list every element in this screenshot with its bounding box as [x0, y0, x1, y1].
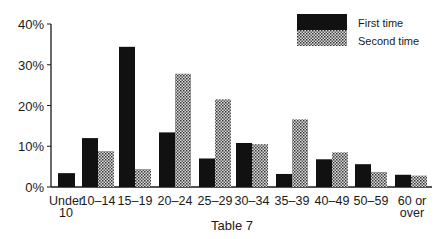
- bar-second-time: [332, 152, 348, 187]
- bar-second-time: [135, 169, 151, 187]
- bar-first-time: [395, 175, 411, 187]
- legend-swatch-second-time: [297, 30, 347, 46]
- x-category-label: 30–34: [235, 194, 270, 208]
- y-tick-label: 40%: [18, 17, 44, 32]
- x-category-label: 10–14: [81, 194, 116, 208]
- x-category-label: 25–29: [198, 194, 233, 208]
- x-category-label: 10: [59, 206, 73, 220]
- bar-first-time: [82, 138, 98, 187]
- bar-second-time: [98, 151, 114, 187]
- legend: First timeSecond time: [297, 14, 419, 47]
- x-category-label: over: [400, 206, 424, 220]
- bar-first-time: [159, 132, 175, 187]
- y-tick-label: 10%: [18, 139, 44, 154]
- x-category-label: 35–39: [275, 194, 310, 208]
- bar-first-time: [316, 159, 332, 187]
- bar-first-time: [58, 173, 75, 187]
- legend-label-first-time: First time: [358, 17, 403, 29]
- bar-second-time: [175, 74, 191, 187]
- chart-caption: Table 7: [211, 218, 253, 233]
- bar-first-time: [276, 174, 292, 187]
- bar-second-time: [252, 144, 268, 187]
- y-tick-label: 20%: [18, 99, 44, 114]
- bar-first-time: [199, 158, 215, 187]
- bar-second-time: [411, 176, 427, 187]
- x-category-label: 50–59: [354, 194, 389, 208]
- bar-first-time: [236, 143, 252, 187]
- bar-first-time: [119, 47, 135, 187]
- y-tick-label: 30%: [18, 58, 44, 73]
- bars: [58, 47, 427, 187]
- x-category-label: 20–24: [158, 194, 193, 208]
- bar-second-time: [292, 119, 308, 187]
- x-axis-labels: Under1010–1415–1920–2425–2930–3435–3940–…: [49, 194, 426, 220]
- y-tick-label: 0%: [25, 180, 44, 195]
- bar-second-time: [215, 99, 231, 187]
- legend-label-second-time: Second time: [358, 35, 419, 47]
- bar-second-time: [371, 172, 387, 187]
- bar-first-time: [355, 164, 371, 187]
- bar-chart: 0%10%20%30%40% Under1010–1415–1920–2425–…: [0, 0, 444, 239]
- legend-swatch-first-time: [297, 14, 347, 30]
- x-category-label: 40–49: [315, 194, 350, 208]
- x-category-label: 15–19: [118, 194, 153, 208]
